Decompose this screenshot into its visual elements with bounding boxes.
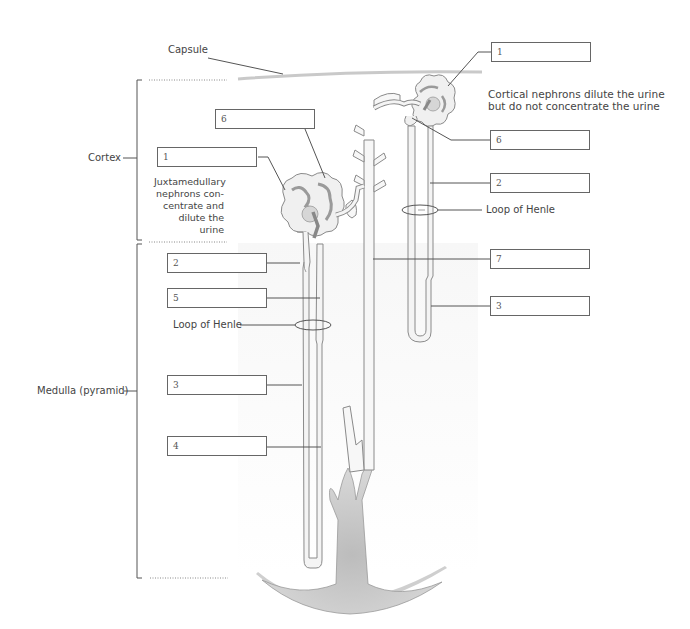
label-box-left-2[interactable]: 2 [167,253,267,273]
juxtamedullary-nephron-note: Juxtamedullary nephrons con- centrate an… [154,176,224,236]
loop-of-henle-label-right: Loop of Henle [486,205,555,215]
loop-of-henle-label-left: Loop of Henle [173,320,242,330]
label-box-left-1[interactable]: 1 [157,147,257,167]
juxta-note-line-3: centrate and [154,200,224,212]
label-box-left-4[interactable]: 4 [167,436,267,456]
medulla-label: Medulla (pyramid) [37,386,129,396]
cortical-nephron-note: Cortical nephrons dilute the urine but d… [488,88,665,112]
juxta-note-line-1: Juxtamedullary [154,176,224,188]
label-box-right-1[interactable]: 1 [491,42,591,62]
juxta-note-line-2: nephrons con- [154,188,224,200]
label-box-right-3[interactable]: 3 [490,296,590,316]
juxta-note-line-4: dilute the urine [154,212,224,236]
label-box-left-3[interactable]: 3 [167,375,267,395]
label-box-right-2[interactable]: 2 [490,173,590,193]
label-box-right-7[interactable]: 7 [490,249,590,269]
region-bracket [123,80,142,578]
juxtamedullary-glomerulus [281,172,344,238]
cortex-label: Cortex [88,153,121,163]
label-box-left-6[interactable]: 6 [215,109,315,129]
capsule-leader [208,58,283,74]
label-box-right-6[interactable]: 6 [490,130,590,150]
capsule-label: Capsule [168,45,208,55]
label-box-left-5[interactable]: 5 [167,288,267,308]
cortical-note-line-1: Cortical nephrons dilute the urine [488,88,665,100]
cortical-note-line-2: but do not concentrate the urine [488,100,665,112]
